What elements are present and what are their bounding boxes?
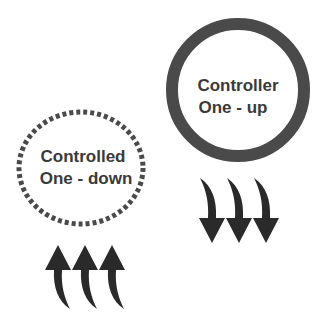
controller-label-line2: One - up (199, 98, 268, 117)
up-arrows (45, 245, 125, 309)
controlled-dotted-ring (19, 112, 143, 224)
up-arrow-icon (45, 245, 71, 309)
controlled-label-line1: Controlled (41, 147, 126, 166)
controller-label-line1: Controller (197, 76, 279, 95)
up-arrow-icon (72, 245, 98, 309)
down-arrows (199, 178, 279, 243)
controlled-label-line2: One - down (40, 169, 133, 188)
down-arrow-icon (226, 178, 252, 243)
down-arrow-icon (199, 178, 225, 243)
controlled-node: Controlled One - down (19, 112, 143, 224)
controller-node: Controller One - up (172, 24, 304, 156)
diagram-canvas: Controller One - up Controlled One - dow… (0, 0, 323, 329)
down-arrow-icon (253, 178, 279, 243)
up-arrow-icon (99, 245, 125, 309)
